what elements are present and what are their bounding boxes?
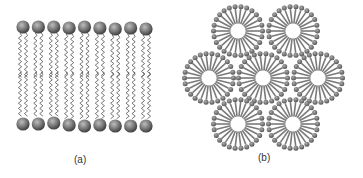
lipid-head-top	[109, 22, 122, 35]
lipid-head-top	[78, 20, 91, 33]
lipid-head-bottom	[109, 119, 122, 132]
lipid-head-top	[124, 21, 137, 34]
micelle	[211, 97, 265, 151]
lipid-head-bottom	[63, 118, 76, 131]
micelle	[291, 51, 345, 105]
figure-canvas	[0, 0, 363, 178]
lipid-head-top	[93, 21, 106, 34]
micelle	[182, 51, 236, 105]
lipid-head-top	[63, 21, 76, 34]
lipid-head-bottom	[93, 118, 106, 131]
lipid-head-bottom	[16, 117, 29, 130]
lipid-head-bottom	[78, 119, 91, 132]
lipid-head-top	[32, 20, 45, 33]
panel-b-label: (b)	[258, 152, 270, 163]
lipid-head-bottom	[32, 117, 45, 130]
lipid-head-bottom	[139, 119, 152, 132]
micelle	[211, 4, 265, 58]
lipid-bilayer-diagram	[16, 20, 152, 132]
lipid-head-top	[139, 22, 152, 35]
lipid-head-top	[47, 20, 60, 33]
micelle	[266, 4, 320, 58]
micelle	[236, 51, 290, 105]
panel-a-label: (a)	[74, 154, 86, 165]
lipid-head-bottom	[47, 116, 60, 129]
micelle-cluster-diagram	[182, 4, 345, 151]
micelle	[266, 97, 320, 151]
lipid-head-bottom	[124, 119, 137, 132]
lipid-head-top	[16, 20, 29, 33]
